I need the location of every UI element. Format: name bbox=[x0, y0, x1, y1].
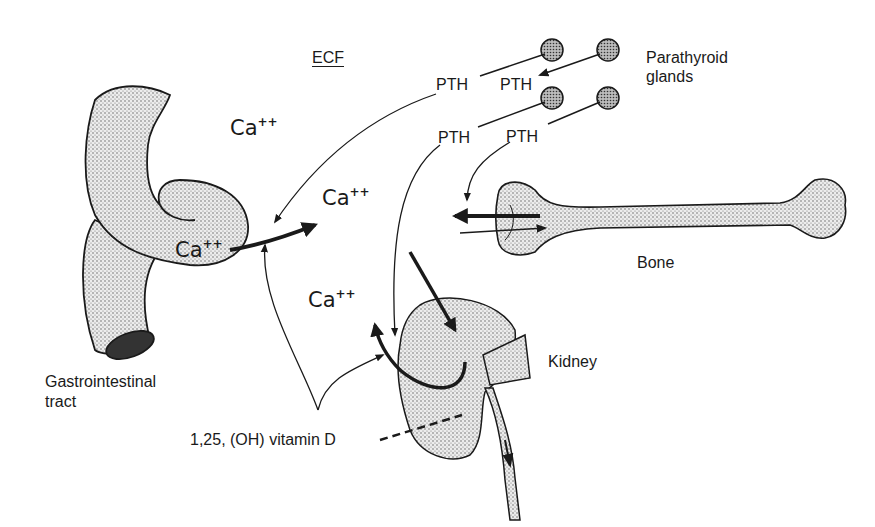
ca-ion-label-ecf-bottom: Ca++ bbox=[308, 285, 356, 310]
kidney-shape bbox=[398, 298, 530, 520]
pth-label-1: PTH bbox=[436, 75, 468, 94]
parathyroid-label-line1: Parathyroid bbox=[646, 48, 728, 67]
ecf-label: ECF bbox=[312, 48, 344, 67]
bone-label: Bone bbox=[637, 253, 674, 272]
pth-label-4: PTH bbox=[506, 127, 538, 146]
parathyroid-glands bbox=[541, 39, 619, 109]
parathyroid-label-line2: glands bbox=[646, 67, 693, 86]
ca-ion-label-ecf-top: Ca++ bbox=[230, 113, 278, 138]
gi-tract-shape bbox=[83, 86, 248, 365]
ca-ion-label-gi: Ca++ bbox=[175, 235, 223, 260]
vitamin-d-label: 1,25, (OH) vitamin D bbox=[190, 430, 336, 449]
pth-label-3: PTH bbox=[438, 128, 470, 147]
gi-label-line2: tract bbox=[45, 392, 76, 411]
bone-shape bbox=[496, 179, 846, 255]
gi-label-line1: Gastrointestinal bbox=[45, 372, 156, 391]
kidney-label: Kidney bbox=[548, 352, 597, 371]
ca-ion-label-ecf-center: Ca++ bbox=[322, 183, 370, 208]
pth-label-2: PTH bbox=[500, 75, 532, 94]
